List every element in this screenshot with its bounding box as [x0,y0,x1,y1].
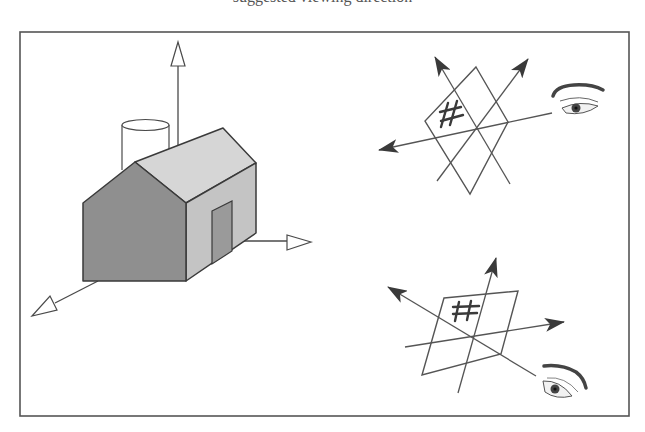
house-door [212,201,232,264]
eye-icon [543,366,586,398]
figure-stage: suggested viewing direction [0,0,645,432]
up-left-arrow [388,287,536,376]
top-view-diagram [379,57,603,194]
up-arrow [458,258,496,393]
hash-glyph [453,301,479,321]
eye-icon [553,85,603,114]
house-diagram [32,42,311,316]
bottom-view-diagram [388,258,586,397]
right-arrow [405,322,564,347]
figure-canvas [0,0,645,432]
vertical-axis-arrow [171,42,185,150]
left-arrow [379,113,552,150]
tilted-plane [425,67,508,194]
hash-glyph [440,101,463,127]
front-left-axis-arrow [32,281,98,316]
